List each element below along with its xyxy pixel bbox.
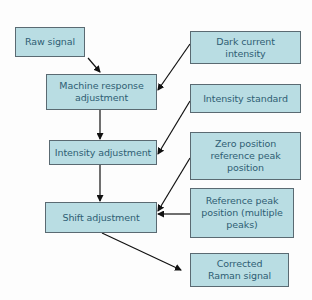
arrow-shift-to-corrected xyxy=(102,233,181,270)
node-intensity-adjustment: Intensity adjustment xyxy=(49,140,157,165)
node-shift-adjustment-label: Shift adjustment xyxy=(62,212,139,224)
node-machine-response-label: Machine response adjustment xyxy=(57,80,146,104)
node-zero-position-label: Zero position reference peak position xyxy=(197,138,294,174)
node-corrected-raman-label: Corrected Raman signal xyxy=(203,258,276,282)
node-corrected-raman-signal: Corrected Raman signal xyxy=(190,253,289,287)
flow-diagram: Raw signal Machine response adjustment I… xyxy=(0,0,312,300)
arrow-dark-to-machine xyxy=(158,44,190,90)
node-zero-position-reference: Zero position reference peak position xyxy=(190,132,301,180)
node-dark-current-intensity: Dark current intensity xyxy=(190,31,301,64)
node-reference-peak-position: Reference peak position (multiple peaks) xyxy=(190,188,294,238)
node-machine-response-adjustment: Machine response adjustment xyxy=(46,74,157,110)
node-intensity-standard-label: Intensity standard xyxy=(203,93,288,105)
node-intensity-adjustment-label: Intensity adjustment xyxy=(55,147,151,159)
arrow-standard-to-intensity xyxy=(158,101,190,154)
arrow-zero-to-shift xyxy=(158,158,190,211)
node-intensity-standard: Intensity standard xyxy=(190,84,301,113)
node-reference-peak-label: Reference peak position (multiple peaks) xyxy=(197,195,287,231)
node-shift-adjustment: Shift adjustment xyxy=(45,202,157,233)
node-raw-signal-label: Raw signal xyxy=(25,36,75,48)
arrow-raw-to-machine xyxy=(88,58,100,72)
node-dark-current-label: Dark current intensity xyxy=(209,36,282,60)
node-raw-signal: Raw signal xyxy=(15,27,85,57)
